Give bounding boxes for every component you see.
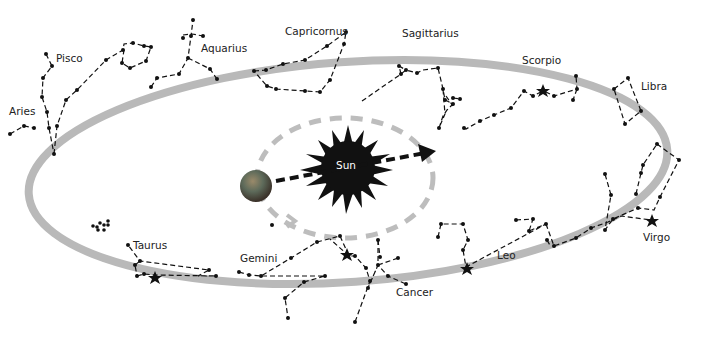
constellation-label-cancer: Cancer bbox=[396, 287, 433, 298]
constellation-label-libra: Libra bbox=[641, 81, 667, 92]
constellation-label-aries: Aries bbox=[9, 106, 35, 117]
constellation-label-sagittarius: Sagittarius bbox=[402, 28, 459, 39]
zodiac-diagram: Sun Aries Pisco Aquarius Capricornus Sag… bbox=[0, 0, 717, 337]
constellation-label-leo: Leo bbox=[497, 250, 516, 261]
constellation-label-taurus: Taurus bbox=[133, 240, 167, 251]
sun-label: Sun bbox=[336, 160, 356, 171]
constellation-label-gemini: Gemini bbox=[240, 253, 277, 264]
diagram-canvas bbox=[0, 0, 717, 337]
constellation-label-aquarius: Aquarius bbox=[201, 43, 247, 54]
constellation-label-capricornus: Capricornus bbox=[285, 26, 348, 37]
constellation-label-virgo: Virgo bbox=[643, 232, 670, 243]
bright-star-icons bbox=[148, 84, 659, 284]
earth-icon bbox=[240, 170, 272, 202]
constellation-label-scorpio: Scorpio bbox=[522, 55, 561, 66]
constellation-label-pisco: Pisco bbox=[56, 53, 83, 64]
